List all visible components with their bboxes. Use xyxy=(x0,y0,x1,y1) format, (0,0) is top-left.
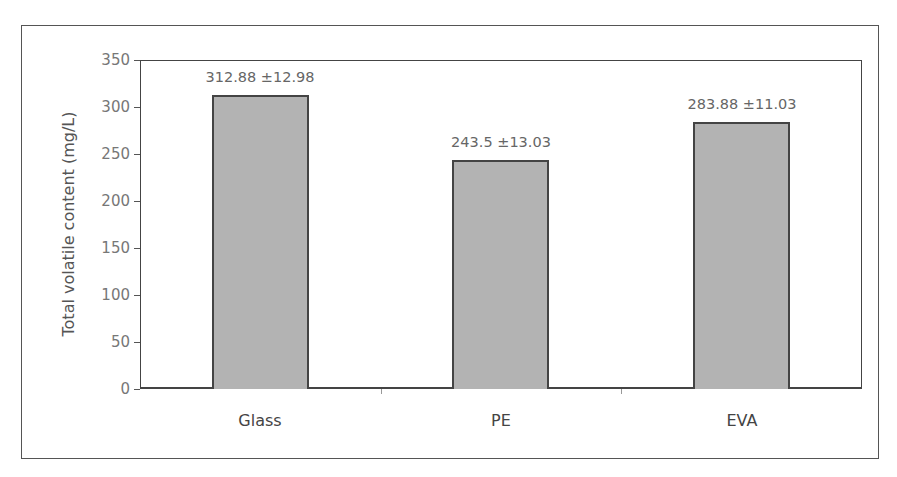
y-tick-label: 50 xyxy=(80,334,130,350)
bar-eva xyxy=(693,122,790,389)
y-tick-label: 100 xyxy=(80,287,130,303)
y-tick-label: 300 xyxy=(80,99,130,115)
y-tick-label: 350 xyxy=(80,52,130,68)
y-tick-label: 150 xyxy=(80,240,130,256)
y-axis-title: Total volatile content (mg/L) xyxy=(59,112,78,337)
bar-pe xyxy=(452,160,549,389)
x-tick-label: Glass xyxy=(238,411,281,430)
y-tick xyxy=(134,389,140,390)
data-label: 312.88 ±12.98 xyxy=(205,69,314,85)
data-label: 283.88 ±11.03 xyxy=(687,96,796,112)
y-tick-label: 200 xyxy=(80,193,130,209)
data-label: 243.5 ±13.03 xyxy=(451,134,551,150)
x-tick xyxy=(381,389,382,394)
y-tick-label: 0 xyxy=(80,381,130,397)
x-tick xyxy=(621,389,622,394)
y-tick-label: 250 xyxy=(80,146,130,162)
x-tick-label: EVA xyxy=(727,411,758,430)
bar-glass xyxy=(212,95,309,389)
x-tick-label: PE xyxy=(491,411,511,430)
